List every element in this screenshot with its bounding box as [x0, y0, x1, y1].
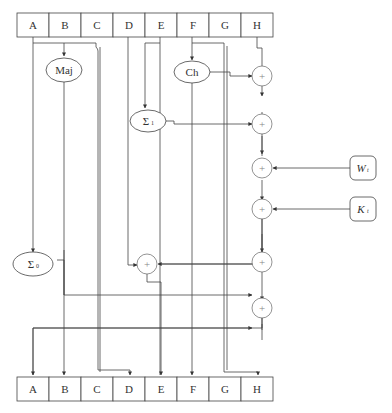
bottom-label-h: H [253, 383, 261, 395]
top-label-g: G [221, 19, 229, 31]
bottom-register-row: A B C D E F G H [17, 377, 273, 401]
adder-6-plus-icon: + [259, 302, 265, 314]
top-register-row: A B C D E F G H [17, 13, 273, 37]
maj-label: Maj [55, 64, 73, 76]
w-label: W [356, 162, 366, 174]
wires [33, 37, 350, 375]
k-label: K [356, 203, 365, 215]
top-label-f: F [190, 19, 196, 31]
round-inputs: W t K t [350, 156, 376, 221]
top-label-d: D [125, 19, 133, 31]
sigma1-label: Σ [143, 115, 149, 127]
sigma1-subscript: 1 [151, 120, 154, 126]
sigma0-label: Σ [28, 258, 34, 270]
sigma0-subscript: 0 [36, 263, 39, 269]
bottom-label-e: E [158, 383, 165, 395]
bottom-label-d: D [125, 383, 133, 395]
top-label-h: H [253, 19, 261, 31]
function-nodes: Maj Ch Σ 1 Σ 0 [13, 58, 210, 276]
adder-2-plus-icon: + [259, 118, 265, 130]
ch-out [207, 72, 252, 76]
adder-4-plus-icon: + [259, 203, 265, 215]
adders: + + + + + + + [137, 66, 272, 318]
adder-3-plus-icon: + [259, 162, 265, 174]
top-label-e: E [158, 19, 165, 31]
adder-5-plus-icon: + [259, 256, 265, 268]
bottom-label-b: B [61, 383, 68, 395]
adder-1-plus-icon: + [259, 70, 265, 82]
bottom-label-f: F [190, 383, 196, 395]
top-label-b: B [61, 19, 68, 31]
adder-d-plus-icon: + [144, 258, 150, 270]
top-label-c: C [93, 19, 100, 31]
ch-label: Ch [186, 66, 199, 78]
bottom-label-a: A [29, 383, 37, 395]
top-label-a: A [29, 19, 37, 31]
sha256-round-diagram: A B C D E F G H A B C D E F G H [0, 0, 392, 413]
bottom-label-g: G [221, 383, 229, 395]
bottom-label-c: C [93, 383, 100, 395]
